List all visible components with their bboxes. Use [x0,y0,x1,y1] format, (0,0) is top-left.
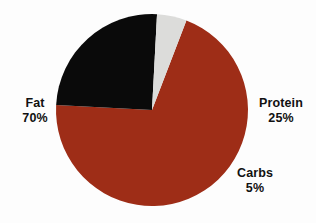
pie-slice-protein [56,14,157,110]
slice-label-carbs-name: Carbs [222,166,288,181]
pie-slices-group [56,14,248,206]
slice-label-fat-value: 70% [2,111,68,126]
slice-label-carbs: Carbs 5% [222,166,288,195]
slice-label-fat-name: Fat [2,96,68,111]
slice-label-fat: Fat 70% [2,96,68,125]
slice-label-protein-name: Protein [246,96,316,111]
slice-label-carbs-value: 5% [222,181,288,196]
slice-label-protein-value: 25% [246,111,316,126]
pie-chart: Fat 70% Protein 25% Carbs 5% [0,0,316,223]
slice-label-protein: Protein 25% [246,96,316,125]
